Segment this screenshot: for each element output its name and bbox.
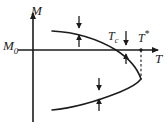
tstar-base: T	[138, 31, 145, 45]
upper-branch-curve	[52, 31, 141, 79]
figure-canvas	[0, 0, 168, 128]
magnetization-axis-label: M	[31, 4, 42, 17]
m-zero-label: M0	[3, 39, 18, 55]
spinodal-temperature-label: T*	[138, 30, 149, 44]
temperature-axis-label: T	[155, 52, 162, 65]
m-zero-base: M	[3, 38, 14, 53]
m-zero-subscript: 0	[14, 46, 18, 56]
lower-branch-curve	[52, 79, 141, 110]
tc-base: T	[108, 29, 115, 43]
tc-subscript: c	[115, 36, 119, 45]
magnetization-temperature-figure: M M0 T Tc T*	[0, 0, 168, 128]
tstar-superscript: *	[145, 29, 150, 39]
spinodal-axis-tick	[139, 48, 142, 51]
critical-temperature-label: Tc	[108, 30, 118, 46]
